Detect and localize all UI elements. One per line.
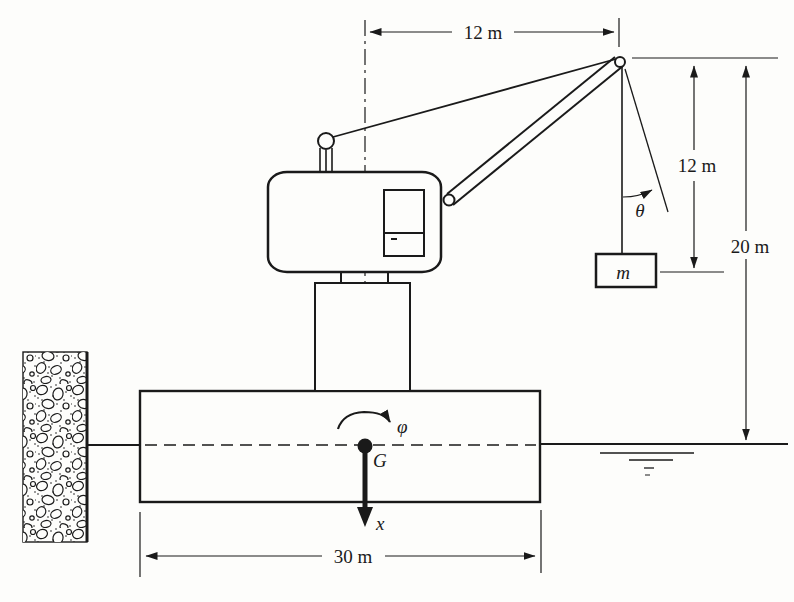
crane-column (315, 283, 410, 391)
barge-hull (140, 391, 540, 502)
pendulum-displaced-line (625, 69, 668, 212)
pendulum: m θ (596, 67, 668, 287)
crane-barge-diagram: m θ 12 m 12 m 20 m 30 m φ G x (0, 0, 794, 602)
crane (268, 57, 625, 391)
center-of-gravity-label: G (373, 450, 387, 471)
dim-height-label: 20 m (731, 236, 770, 257)
quay-wall (23, 352, 87, 542)
x-axis-arrow-head (357, 507, 373, 527)
dim-barge-length: 30 m (140, 510, 541, 577)
water-surface (540, 444, 788, 475)
theta-label: θ (635, 200, 644, 221)
x-axis-label: x (375, 513, 385, 534)
mass-label: m (616, 262, 630, 283)
boom-lower-edge (453, 66, 623, 205)
phi-label: φ (397, 416, 408, 437)
boom-pivot (444, 195, 455, 206)
dim-height-above-water: 20 m (731, 66, 770, 440)
dim-cable-length-label: 12 m (678, 155, 717, 176)
mast-ball (318, 133, 334, 149)
theta-arc (623, 190, 652, 197)
boom-upper-edge (447, 57, 615, 194)
figure: m θ 12 m 12 m 20 m 30 m φ G x (0, 0, 794, 602)
dim-boom-reach: 12 m (370, 18, 619, 47)
boom-tip-pulley (615, 57, 625, 67)
dim-cable-length: 12 m (678, 66, 717, 268)
hoist-cable (333, 59, 616, 137)
dim-barge-length-label: 30 m (334, 546, 373, 567)
dim-boom-reach-label: 12 m (464, 22, 503, 43)
